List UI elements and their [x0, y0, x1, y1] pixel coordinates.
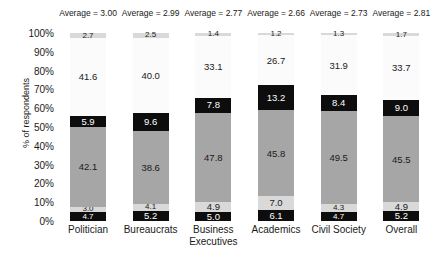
segment-value-label: 2.7 — [82, 32, 93, 40]
segment-value-label: 41.6 — [79, 72, 98, 82]
x-axis-label-line: Academics — [242, 224, 310, 236]
y-axis-tick-90: 90% — [16, 46, 54, 57]
bar-column-academics: 6.17.045.813.226.71.2 — [246, 33, 306, 221]
bar-segment-academics-segment-3[interactable]: 45.8 — [258, 110, 294, 196]
bar-segment-civil-society-segment-4[interactable]: 8.4 — [321, 95, 357, 111]
bar-segment-business-executives-segment-1[interactable]: 5.0 — [195, 212, 231, 221]
bar-segment-overall-segment-4[interactable]: 9.0 — [383, 100, 419, 117]
bar-segment-academics-segment-4[interactable]: 13.2 — [258, 85, 294, 110]
segment-value-label: 7.8 — [207, 100, 220, 110]
segment-value-label: 7.0 — [269, 198, 282, 208]
x-axis-label-line: Overall — [367, 224, 435, 236]
stacked-bar-business-executives[interactable]: 5.04.947.87.833.11.4 — [195, 33, 231, 221]
x-axis-label-line: Bureaucrats — [117, 224, 185, 236]
bar-segment-overall-segment-1[interactable]: 5.2 — [383, 211, 419, 221]
x-axis-label-line: Executives — [179, 236, 247, 248]
segment-value-label: 40.0 — [141, 71, 160, 81]
segment-value-label: 45.5 — [392, 155, 411, 165]
bar-segment-civil-society-segment-6[interactable]: 1.3 — [321, 33, 357, 35]
segment-value-label: 1.4 — [208, 30, 219, 38]
stacked-bar-academics[interactable]: 6.17.045.813.226.71.2 — [258, 33, 294, 221]
y-axis-tick-40: 40% — [16, 140, 54, 151]
segment-value-label: 4.1 — [145, 203, 156, 211]
x-axis-label-civil-society: Civil Society — [305, 224, 373, 236]
segment-value-label: 38.6 — [141, 163, 160, 173]
average-label-bureaucrats: Average = 2.99 — [118, 8, 184, 18]
bar-segment-business-executives-segment-2[interactable]: 4.9 — [195, 202, 231, 211]
x-axis-label-line: Civil Society — [305, 224, 373, 236]
segment-value-label: 45.8 — [267, 149, 286, 159]
bar-segment-academics-segment-1[interactable]: 6.1 — [258, 210, 294, 221]
bar-segment-bureaucrats-segment-2[interactable]: 4.1 — [133, 204, 169, 212]
bar-segment-civil-society-segment-3[interactable]: 49.5 — [321, 111, 357, 204]
plot-area: 4.73.042.15.941.62.75.24.138.69.640.02.5… — [58, 33, 434, 221]
bar-segment-business-executives-segment-5[interactable]: 33.1 — [195, 36, 231, 98]
bar-segment-academics-segment-5[interactable]: 26.7 — [258, 35, 294, 85]
average-annotations-row: Average = 3.00Average = 2.99Average = 2.… — [58, 8, 434, 22]
segment-value-label: 8.4 — [332, 98, 345, 108]
bar-column-politician: 4.73.042.15.941.62.7 — [58, 33, 118, 221]
stacked-bar-overall[interactable]: 5.24.945.59.033.71.7 — [383, 33, 419, 221]
bar-segment-overall-segment-2[interactable]: 4.9 — [383, 202, 419, 211]
stacked-bar-civil-society[interactable]: 4.74.349.58.431.91.3 — [321, 33, 357, 221]
bar-segment-bureaucrats-segment-3[interactable]: 38.6 — [133, 131, 169, 204]
bar-segment-civil-society-segment-5[interactable]: 31.9 — [321, 35, 357, 95]
segment-value-label: 49.5 — [329, 153, 348, 163]
x-axis-label-line: Business — [179, 224, 247, 236]
bar-segment-academics-segment-6[interactable]: 1.2 — [258, 33, 294, 35]
segment-value-label: 5.9 — [81, 117, 94, 127]
x-axis-label-business-executives: BusinessExecutives — [179, 224, 247, 248]
segment-value-label: 6.1 — [269, 211, 282, 221]
y-axis-tick-10: 10% — [16, 197, 54, 208]
segment-value-label: 4.9 — [207, 202, 220, 212]
bar-segment-politician-segment-3[interactable]: 42.1 — [70, 127, 106, 206]
segment-value-label: 5.0 — [207, 212, 220, 222]
stacked-bar-politician[interactable]: 4.73.042.15.941.62.7 — [70, 33, 106, 221]
bar-column-business-executives: 5.04.947.87.833.11.4 — [183, 33, 243, 221]
y-axis-tick-50: 50% — [16, 122, 54, 133]
bar-segment-business-executives-segment-3[interactable]: 47.8 — [195, 113, 231, 203]
segment-value-label: 9.6 — [144, 117, 157, 127]
segment-value-label: 3.0 — [82, 205, 93, 213]
y-axis-tick-100: 100% — [16, 28, 54, 39]
bar-segment-academics-segment-2[interactable]: 7.0 — [258, 196, 294, 209]
bar-segment-overall-segment-5[interactable]: 33.7 — [383, 36, 419, 99]
y-axis-tick-20: 20% — [16, 178, 54, 189]
bar-segment-politician-segment-1[interactable]: 4.7 — [70, 212, 106, 221]
bar-segment-politician-segment-6[interactable]: 2.7 — [70, 33, 106, 38]
bar-segment-politician-segment-2[interactable]: 3.0 — [70, 207, 106, 213]
bar-column-civil-society: 4.74.349.58.431.91.3 — [309, 33, 369, 221]
y-axis-tick-70: 70% — [16, 84, 54, 95]
bar-segment-civil-society-segment-2[interactable]: 4.3 — [321, 204, 357, 212]
segment-value-label: 4.7 — [82, 213, 93, 221]
x-axis-label-bureaucrats: Bureaucrats — [117, 224, 185, 236]
average-label-politician: Average = 3.00 — [55, 8, 121, 18]
x-axis-label-academics: Academics — [242, 224, 310, 236]
bar-segment-business-executives-segment-4[interactable]: 7.8 — [195, 98, 231, 113]
x-axis-label-politician: Politician — [54, 224, 122, 236]
bar-segment-business-executives-segment-6[interactable]: 1.4 — [195, 33, 231, 36]
bar-segment-civil-society-segment-1[interactable]: 4.7 — [321, 212, 357, 221]
segment-value-label: 42.1 — [79, 162, 98, 172]
bar-segment-bureaucrats-segment-6[interactable]: 2.5 — [133, 33, 169, 38]
bar-segment-bureaucrats-segment-4[interactable]: 9.6 — [133, 113, 169, 131]
segment-value-label: 5.2 — [144, 211, 157, 221]
bar-segment-bureaucrats-segment-5[interactable]: 40.0 — [133, 38, 169, 113]
y-axis-tick-0: 0% — [16, 216, 54, 227]
segment-value-label: 1.7 — [396, 31, 407, 39]
bar-segment-overall-segment-3[interactable]: 45.5 — [383, 116, 419, 202]
segment-value-label: 33.7 — [392, 63, 411, 73]
average-label-business-executives: Average = 2.77 — [180, 8, 246, 18]
x-axis-label-line: Politician — [54, 224, 122, 236]
bar-column-overall: 5.24.945.59.033.71.7 — [371, 33, 431, 221]
stacked-bar-bureaucrats[interactable]: 5.24.138.69.640.02.5 — [133, 33, 169, 221]
stacked-bar-chart: % of respondents 100%90%80%70%60%50%40%3… — [0, 0, 438, 270]
bar-segment-politician-segment-5[interactable]: 41.6 — [70, 38, 106, 116]
bar-segment-bureaucrats-segment-1[interactable]: 5.2 — [133, 211, 169, 221]
segment-value-label: 47.8 — [204, 153, 223, 163]
bar-segment-politician-segment-4[interactable]: 5.9 — [70, 116, 106, 127]
segment-value-label: 33.1 — [204, 62, 223, 72]
x-axis-category-labels: PoliticianBureaucratsBusinessExecutivesA… — [58, 224, 434, 266]
segment-value-label: 2.5 — [145, 31, 156, 39]
bar-segment-overall-segment-6[interactable]: 1.7 — [383, 33, 419, 36]
